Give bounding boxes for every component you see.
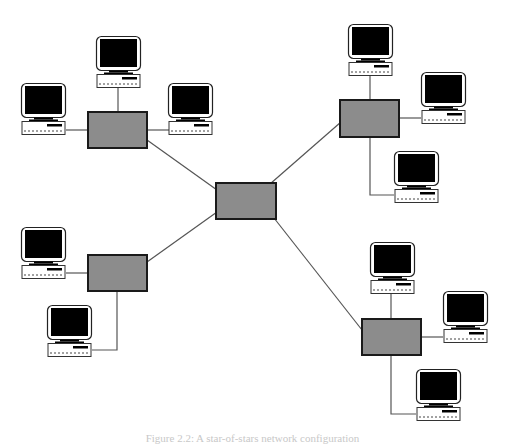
computer-icon bbox=[48, 306, 92, 357]
computer-icon bbox=[422, 73, 466, 124]
hub-top-left bbox=[88, 112, 147, 148]
hub-bottom-left bbox=[88, 255, 147, 291]
computer-icon bbox=[395, 152, 439, 203]
computer-icon bbox=[22, 228, 66, 279]
computer-icon bbox=[444, 292, 488, 343]
hubs bbox=[88, 100, 421, 355]
figure-caption: Figure 2.2: A star-of-stars network conf… bbox=[0, 432, 505, 444]
central-hub bbox=[216, 183, 276, 219]
computer-icon bbox=[169, 84, 213, 135]
computer-icon bbox=[22, 84, 66, 135]
computer-icon bbox=[371, 243, 415, 294]
hub-top-right bbox=[340, 100, 399, 137]
computer-icon bbox=[417, 370, 461, 421]
computer-icon bbox=[97, 37, 141, 88]
computers bbox=[22, 25, 488, 421]
trunk-links bbox=[147, 122, 362, 330]
hub-bottom-right bbox=[362, 319, 421, 355]
computer-icon bbox=[349, 25, 393, 76]
